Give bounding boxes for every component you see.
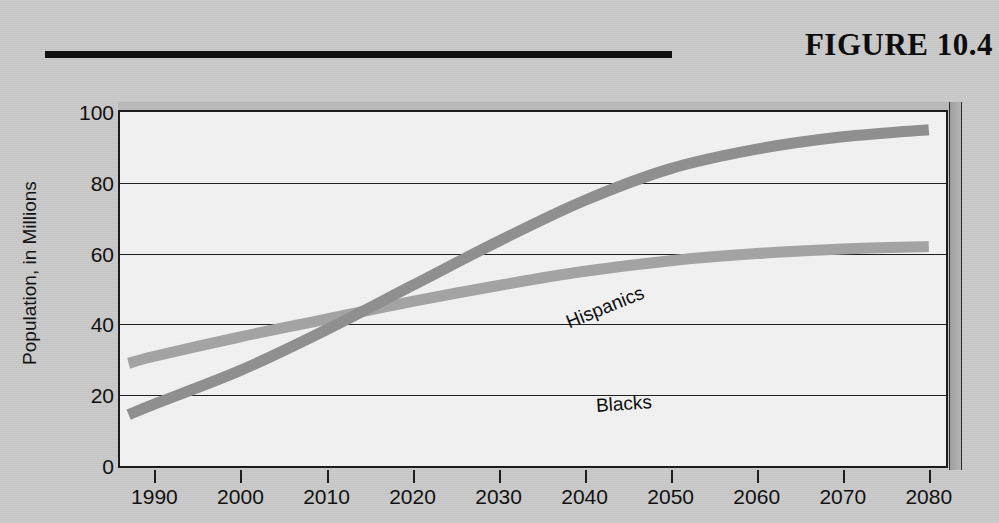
y-tick-label: 100 <box>54 102 114 123</box>
series-line-blacks <box>129 247 929 364</box>
figure-page: FIGURE 10.4 Population, in Millions 0204… <box>0 0 999 523</box>
figure-rule <box>45 51 672 58</box>
x-tick-label: 2030 <box>459 486 539 507</box>
x-tick-label: 2020 <box>373 486 453 507</box>
x-tick-mark <box>499 470 501 483</box>
y-axis-ticks: Population, in Millions 020406080100 <box>30 102 114 482</box>
x-tick-mark <box>154 470 156 483</box>
y-axis-title: Population, in Millions <box>19 103 41 443</box>
y-tick-label: 40 <box>54 314 114 335</box>
x-axis-ticks: 1990200020102020203020402050206020702080 <box>118 470 962 520</box>
plot-frame: Hispanics Blacks <box>118 110 948 468</box>
x-tick-mark <box>327 470 329 483</box>
chart-box-right-face <box>949 102 962 470</box>
figure-header: FIGURE 10.4 <box>0 0 999 86</box>
figure-title: FIGURE 10.4 <box>805 27 993 63</box>
x-tick-mark <box>929 470 931 483</box>
y-tick-label: 20 <box>54 385 114 406</box>
x-tick-label: 2060 <box>717 486 797 507</box>
x-tick-label: 2080 <box>889 486 969 507</box>
x-tick-mark <box>671 470 673 483</box>
x-tick-label: 2040 <box>545 486 625 507</box>
x-tick-mark <box>585 470 587 483</box>
y-tick-label: 0 <box>54 456 114 477</box>
series-label-blacks: Blacks <box>595 391 652 417</box>
x-tick-label: 2010 <box>287 486 367 507</box>
x-tick-mark <box>757 470 759 483</box>
x-tick-mark <box>240 470 242 483</box>
x-tick-label: 2000 <box>200 486 280 507</box>
y-tick-label: 80 <box>54 173 114 194</box>
x-tick-mark <box>843 470 845 483</box>
x-tick-label: 2050 <box>631 486 711 507</box>
x-tick-mark <box>413 470 415 483</box>
x-tick-label: 2070 <box>803 486 883 507</box>
y-tick-label: 60 <box>54 244 114 265</box>
chart-plot-box: Hispanics Blacks <box>118 102 962 470</box>
series-lines <box>120 112 946 466</box>
x-tick-label: 1990 <box>114 486 194 507</box>
series-line-hispanics <box>129 130 929 415</box>
